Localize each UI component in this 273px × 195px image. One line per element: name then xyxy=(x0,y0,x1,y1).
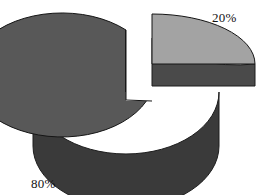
pie-chart-figure: 20% 80% xyxy=(0,0,273,195)
pie-chart-svg xyxy=(0,0,273,195)
slice-label-major: 80% xyxy=(31,177,55,190)
slice-label-minor: 20% xyxy=(212,11,236,24)
explosion-gap xyxy=(126,30,152,101)
minor-slice-top xyxy=(152,14,255,64)
